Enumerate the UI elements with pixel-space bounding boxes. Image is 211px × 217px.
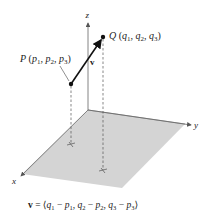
vector-v: [71, 40, 101, 84]
vector-v-label: v: [90, 57, 95, 67]
vector-formula-caption: v = ⟨q1 − p1, q2 − p2, q3 − p3⟩: [28, 200, 138, 211]
point-q: [101, 35, 105, 39]
y-axis-label: y: [193, 120, 198, 130]
point-p: [69, 82, 73, 86]
vector-diagram: z y x v Q (q1, q2, q3) P (p1, p2, p3) v …: [0, 0, 211, 217]
z-axis-label: z: [85, 10, 90, 20]
point-q-label: Q (q1, q2, q3): [109, 30, 161, 43]
xy-plane: [22, 110, 185, 188]
x-axis-label: x: [11, 176, 16, 186]
point-p-label: P (p1, p2, p3): [19, 53, 71, 66]
p-leader-line: [60, 66, 69, 81]
